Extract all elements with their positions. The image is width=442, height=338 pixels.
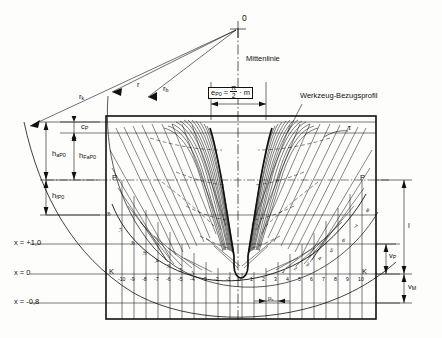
radius-r-symbol: r	[137, 80, 140, 89]
cut-number-4: 4	[286, 277, 289, 282]
cut-number-3: 3	[274, 277, 277, 282]
cut-number-neg2: -2	[214, 277, 219, 282]
radius-leader-lines	[30, 30, 236, 126]
dim-l-label: l	[408, 222, 410, 230]
cut-number-6: 6	[310, 277, 313, 282]
pitch-line-marker-right: P	[360, 174, 365, 182]
right-dimension-arrows	[384, 180, 407, 303]
tool-reference-profile-label: Werkzeug-Bezugsprofil	[300, 92, 377, 100]
rack-flanks-right	[252, 124, 372, 272]
dim-vP-subscript: P	[393, 254, 397, 260]
tau-leader-line	[324, 131, 348, 137]
cut-number-neg1: -1	[226, 277, 231, 282]
dim-hFaP0-label: hFaP0	[79, 152, 96, 160]
dim-ps-label: ps	[268, 295, 274, 302]
dim-ps-subscript: s	[271, 297, 273, 302]
x-shift-plus1-label: x = +1,0	[14, 239, 41, 247]
pitch-line-marker-left: P	[112, 174, 117, 182]
right-dimension-lines	[376, 180, 412, 303]
dim-vP-label: vP	[389, 252, 396, 260]
cut-number-neg8: -8	[142, 277, 147, 282]
dim-hfP0-subscript: fP0	[56, 194, 64, 200]
dim-l-symbol: l	[408, 221, 410, 230]
dim-vM-subscript: M	[412, 285, 417, 291]
cut-number-neg5: -5	[178, 277, 183, 282]
cut-number-neg4: -4	[190, 277, 195, 282]
epo-numerator: π	[230, 84, 237, 92]
radius-r-label: r	[137, 81, 140, 89]
epo-equals: =	[224, 88, 228, 97]
x-shift-zero-label: x = 0	[14, 269, 30, 277]
cut-number-9: 9	[346, 277, 349, 282]
radius-rk-subscript: k	[82, 95, 85, 101]
dim-vM-label: vM	[408, 283, 416, 291]
radius-rb-label: rb	[163, 85, 169, 93]
root-interference-hatch	[206, 238, 276, 268]
dim-cP-subscript: P	[85, 125, 89, 131]
tau-label: τ	[348, 124, 351, 132]
dim-cP-label: cP	[81, 123, 88, 131]
dim-hfP0-label: hfP0	[52, 192, 64, 200]
cut-number-8: 8	[334, 277, 337, 282]
gear-tool-reference-profile-drawing	[0, 0, 442, 338]
rolling-line-marker-left: K	[109, 268, 114, 276]
cut-number-10: 10	[358, 277, 364, 282]
cut-number-neg10: -10	[118, 277, 126, 282]
left-dimension-lines	[40, 122, 100, 215]
pivot-point-label: 0	[242, 14, 247, 23]
diagram-canvas: 0 Mittenlinie Werkzeug-Bezugsprofil τ eP…	[0, 0, 442, 338]
centerline-label: Mittenlinie	[246, 55, 280, 63]
pivot-point-marker	[230, 21, 246, 38]
rolling-line-marker-right: K	[362, 268, 367, 276]
cut-number-7: 7	[322, 277, 325, 282]
epo-factor: · m	[239, 88, 250, 97]
cut-number-neg9: -9	[130, 277, 135, 282]
cut-number-2: 2	[262, 277, 265, 282]
epo-denominator: 2	[230, 92, 237, 99]
cut-number-5: 5	[298, 277, 301, 282]
cut-number-1: 1	[250, 277, 253, 282]
epo-formula: eP0 = π 2 · m	[208, 84, 253, 99]
cut-number-neg3: -3	[202, 277, 207, 282]
cut-number-neg7: -7	[154, 277, 159, 282]
epo-subscript: P0	[215, 91, 222, 97]
dim-haP0-subscript: aP0	[56, 152, 66, 158]
dim-haP0-label: haP0	[52, 150, 66, 158]
tool-profile-leader-line	[288, 104, 302, 132]
cut-number-0: 0	[238, 277, 241, 282]
epo-fraction: π 2	[230, 84, 237, 99]
x-shift-minus08-label: x = -0,8	[14, 298, 39, 306]
cut-number-neg6: -6	[166, 277, 171, 282]
dim-hFaP0-subscript: FaP0	[83, 154, 96, 160]
root-fillet-envelope	[234, 266, 248, 278]
radius-rb-subscript: b	[166, 87, 169, 93]
radius-rk-label: rk	[79, 93, 84, 101]
